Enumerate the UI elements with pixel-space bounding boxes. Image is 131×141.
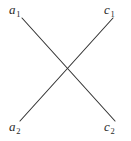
node-label-a2-subscript: 2	[16, 126, 20, 136]
node-label-a1-subscript: 1	[16, 9, 20, 19]
edge-a2-c1	[20, 18, 113, 121]
node-label-a2: a2	[9, 120, 20, 135]
node-label-c1: c1	[104, 3, 114, 18]
node-label-c2: c2	[104, 120, 114, 135]
node-label-a1: a1	[9, 3, 20, 18]
node-label-c1-subscript: 1	[110, 9, 114, 19]
node-label-a1-base: a	[9, 2, 16, 17]
edge-a1-c2	[22, 18, 115, 121]
node-label-c2-subscript: 2	[110, 126, 114, 136]
node-label-a2-base: a	[9, 119, 16, 134]
crossing-diagram: a1 c1 a2 c2	[0, 0, 131, 141]
